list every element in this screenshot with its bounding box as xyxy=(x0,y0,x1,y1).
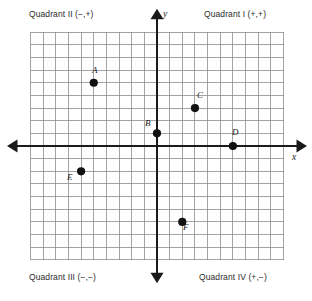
point-label-E: E xyxy=(67,172,73,182)
quadrant-4-label: Quadrant IV (+,−) xyxy=(199,272,267,282)
plotted-point-D xyxy=(229,142,237,150)
axes xyxy=(7,9,307,284)
point-label-F: F xyxy=(183,222,189,232)
point-label-B: B xyxy=(145,118,151,128)
y-axis-label: y xyxy=(163,9,167,19)
plotted-point-B xyxy=(153,129,161,137)
point-label-C: C xyxy=(197,90,203,100)
y-axis-arrow-negative xyxy=(151,273,164,284)
quadrant-3-label: Quadrant III (−,−) xyxy=(29,272,96,282)
x-axis-label: x xyxy=(292,152,296,162)
y-axis-arrow-positive xyxy=(151,9,164,20)
x-axis-arrow-positive xyxy=(297,140,308,153)
x-axis-arrow-negative xyxy=(7,140,18,153)
point-label-A: A xyxy=(92,65,98,75)
quadrant-2-label: Quadrant II (−,+) xyxy=(29,9,94,19)
plotted-point-A xyxy=(90,79,98,87)
plotted-point-E xyxy=(77,167,85,175)
plotted-point-C xyxy=(191,104,199,112)
quadrant-1-label: Quadrant I (+,+) xyxy=(204,9,266,19)
coordinate-plane xyxy=(0,0,312,301)
point-label-D: D xyxy=(232,127,239,137)
